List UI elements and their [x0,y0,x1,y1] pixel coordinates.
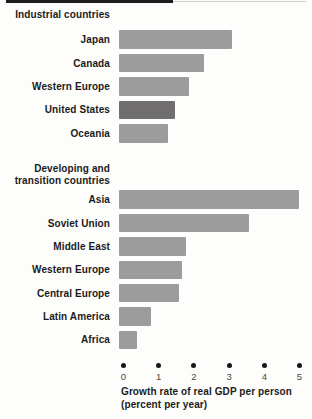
bar [119,237,186,256]
x-axis-tick-label: 0 [116,371,132,382]
bar [119,214,249,233]
row-label: Japan [0,34,119,45]
row-label: Africa [0,334,119,345]
bar [119,307,151,326]
chart-row: Latin America [0,305,312,328]
bar [119,124,168,143]
bar [119,77,189,96]
row-label: United States [0,104,119,115]
x-axis-title-line1: Growth rate of real GDP per person [121,385,292,398]
bar [119,101,175,120]
group-header: Industrial countries [0,9,110,21]
group-header-line: Industrial countries [0,9,110,21]
chart-row: Central Europe [0,282,312,305]
bar [119,190,299,209]
x-axis-title-line2: (percent per year) [121,398,292,411]
bar [119,331,137,350]
chart-row: Western Europe [0,75,312,98]
row-label: Middle East [0,241,119,252]
bar [119,261,182,280]
row-label: Oceania [0,128,119,139]
x-axis-tick-label: 1 [151,371,167,382]
chart-row: Oceania [0,122,312,145]
row-label: Soviet Union [0,218,119,229]
gdp-growth-figure: Industrial countriesJapanCanadaWestern E… [0,0,312,419]
x-axis-tick-label: 3 [221,371,237,382]
row-label: Latin America [0,311,119,322]
group-header-line: transition countries [0,175,110,187]
row-label: Western Europe [0,81,119,92]
top-rule-light [173,1,306,3]
chart-row: Soviet Union [0,211,312,234]
bar [119,284,179,303]
chart-row: Canada [0,51,312,74]
x-axis-tick-dot [156,363,161,368]
chart-row: Western Europe [0,258,312,281]
row-label: Asia [0,194,119,205]
chart-row: Asia [0,188,312,211]
x-axis-tick-dot [191,363,196,368]
x-axis-tick-dot [227,363,232,368]
chart-row: Africa [0,328,312,351]
x-axis-tick-label: 4 [256,371,272,382]
bar [119,30,232,49]
x-axis-tick-label: 5 [292,371,308,382]
group-header: Developing andtransition countries [0,163,110,187]
bar [119,54,204,73]
x-axis-tick-label: 2 [186,371,202,382]
chart-row: United States [0,98,312,121]
chart-row: Middle East [0,235,312,258]
x-axis-tick-dot [297,363,302,368]
row-label: Canada [0,58,119,69]
row-label: Western Europe [0,264,119,275]
x-axis-tick-dot [121,363,126,368]
x-axis-title: Growth rate of real GDP per person (perc… [121,385,292,411]
x-axis-tick-dot [262,363,267,368]
bar-chart: Industrial countriesJapanCanadaWestern E… [0,9,312,352]
x-axis: 012345 [0,352,312,384]
group-header-line: Developing and [0,163,110,175]
top-rule-dark [6,0,173,3]
row-label: Central Europe [0,288,119,299]
chart-row: Japan [0,28,312,51]
